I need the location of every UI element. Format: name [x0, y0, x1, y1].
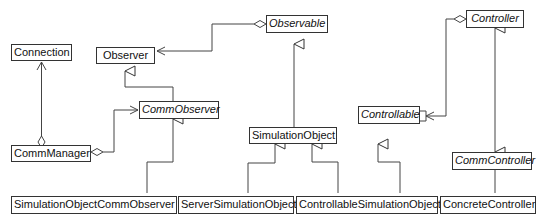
class-name: Controller — [471, 12, 519, 24]
class-commmanager[interactable]: CommManager — [11, 145, 91, 162]
assoc-commmanager-commobserver — [103, 110, 138, 152]
class-name: Observer — [103, 49, 148, 61]
class-commcontroller[interactable]: CommController — [452, 152, 532, 170]
gen-serversim-simobject — [248, 144, 275, 193]
diamond-observable — [254, 21, 266, 28]
gen-commobserver-observer — [125, 71, 173, 104]
class-controllable[interactable]: Controllable — [358, 106, 420, 124]
class-observer[interactable]: Observer — [96, 47, 155, 64]
class-name: CommController — [455, 154, 535, 166]
class-name: Controllable — [361, 108, 420, 120]
class-name: CommObserver — [142, 103, 220, 115]
gen-socomm-commobserver — [147, 119, 173, 193]
gen-ctrlsim-controllable — [378, 144, 400, 193]
class-name: SimulationObjectCommObserver — [14, 198, 175, 210]
diamond-controller — [454, 16, 466, 23]
assoc-observable-observer — [157, 24, 254, 51]
class-observable[interactable]: Observable — [266, 15, 328, 33]
class-connection[interactable]: Connection — [11, 44, 72, 61]
class-simulationobject[interactable]: SimulationObject — [249, 127, 337, 144]
assoc-controller-controllable — [426, 19, 454, 116]
class-name: CommManager — [14, 147, 90, 159]
class-name: Connection — [14, 46, 70, 58]
class-concretecontroller[interactable]: ConcreteController — [440, 196, 536, 214]
class-simulationobjectcommobserver[interactable]: SimulationObjectCommObserver — [11, 196, 177, 214]
class-name: SimulationObject — [252, 129, 335, 141]
diamond-commmanager-right — [91, 149, 103, 156]
class-name: ControllableSimulationObject — [299, 198, 441, 210]
class-controllablesimulationobject[interactable]: ControllableSimulationObject — [296, 196, 438, 214]
relationship-lines — [0, 0, 543, 223]
class-name: Observable — [269, 17, 325, 29]
class-name: ServerSimulationObject — [181, 198, 297, 210]
class-controller[interactable]: Controller — [466, 10, 524, 28]
gen-ctrlsim-simobject — [312, 144, 338, 193]
class-serversimulationobject[interactable]: ServerSimulationObject — [178, 196, 294, 214]
class-name: ConcreteController — [443, 198, 535, 210]
class-commobserver[interactable]: CommObserver — [139, 101, 219, 119]
